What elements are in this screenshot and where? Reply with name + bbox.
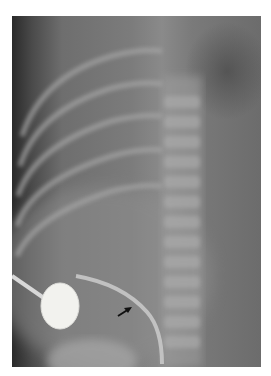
xray-drawing: [12, 16, 261, 367]
electrode-disc: [41, 283, 79, 329]
xray-image: [12, 16, 261, 367]
